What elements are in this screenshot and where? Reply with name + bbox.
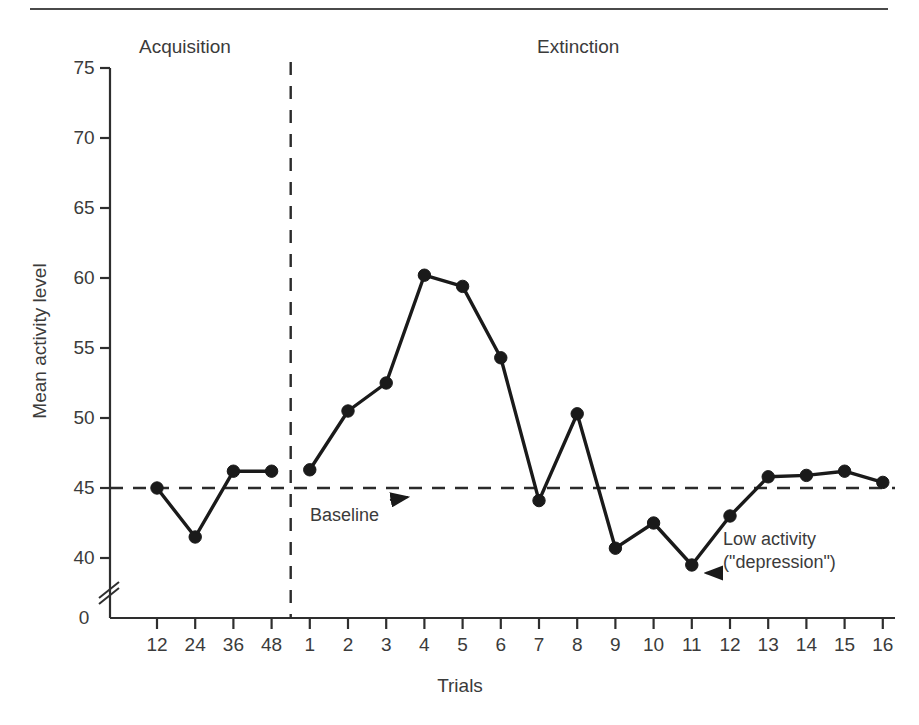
data-series-line <box>157 275 883 565</box>
ticks-group <box>100 68 883 629</box>
data-point <box>227 465 239 477</box>
x-tick-label: 48 <box>261 634 282 656</box>
x-tick-label: 3 <box>381 634 392 656</box>
x-tick-label: 14 <box>796 634 817 656</box>
annotation-arrows-group <box>390 497 718 573</box>
x-tick-label: 6 <box>496 634 507 656</box>
x-tick-label: 2 <box>343 634 354 656</box>
data-point <box>342 405 354 417</box>
x-tick-label: 16 <box>872 634 893 656</box>
axes-group <box>99 68 895 618</box>
data-point <box>380 377 392 389</box>
y-tick-label: 50 <box>73 407 94 429</box>
data-point <box>877 476 889 488</box>
data-point <box>533 494 545 506</box>
y-origin-label: 0 <box>79 607 90 629</box>
data-point <box>151 482 163 494</box>
y-tick-label: 40 <box>73 547 94 569</box>
series-segment-extinction <box>310 275 883 565</box>
x-tick-label: 10 <box>643 634 664 656</box>
data-point <box>838 465 850 477</box>
data-point <box>762 471 774 483</box>
baseline-arrow <box>390 497 408 500</box>
x-tick-label: 4 <box>419 634 430 656</box>
plot-area <box>0 0 919 725</box>
data-point <box>304 464 316 476</box>
data-point <box>456 280 468 292</box>
x-tick-label: 5 <box>457 634 468 656</box>
x-tick-label: 12 <box>146 634 167 656</box>
data-point <box>609 542 621 554</box>
x-tick-label: 24 <box>185 634 206 656</box>
data-point <box>265 465 277 477</box>
y-tick-label: 45 <box>73 477 94 499</box>
series-segment-acquisition <box>157 471 272 537</box>
x-tick-label: 11 <box>682 634 702 656</box>
y-tick-label: 75 <box>73 57 94 79</box>
y-tick-label: 70 <box>73 127 94 149</box>
x-tick-label: 7 <box>534 634 545 656</box>
x-tick-label: 36 <box>223 634 244 656</box>
data-point <box>800 469 812 481</box>
x-tick-label: 12 <box>719 634 740 656</box>
data-point <box>495 352 507 364</box>
data-point <box>724 510 736 522</box>
figure-container: Acquisition Extinction Mean activity lev… <box>0 0 919 725</box>
data-point <box>647 517 659 529</box>
data-point <box>418 269 430 281</box>
x-tick-label: 13 <box>758 634 779 656</box>
x-tick-label: 15 <box>834 634 855 656</box>
y-tick-label: 60 <box>73 267 94 289</box>
data-point <box>571 408 583 420</box>
x-tick-label: 1 <box>305 634 316 656</box>
y-tick-label: 55 <box>73 337 94 359</box>
y-tick-label: 65 <box>73 197 94 219</box>
x-tick-label: 9 <box>610 634 621 656</box>
data-point <box>189 531 201 543</box>
data-points-group <box>151 269 889 571</box>
x-tick-label: 8 <box>572 634 583 656</box>
data-point <box>686 559 698 571</box>
